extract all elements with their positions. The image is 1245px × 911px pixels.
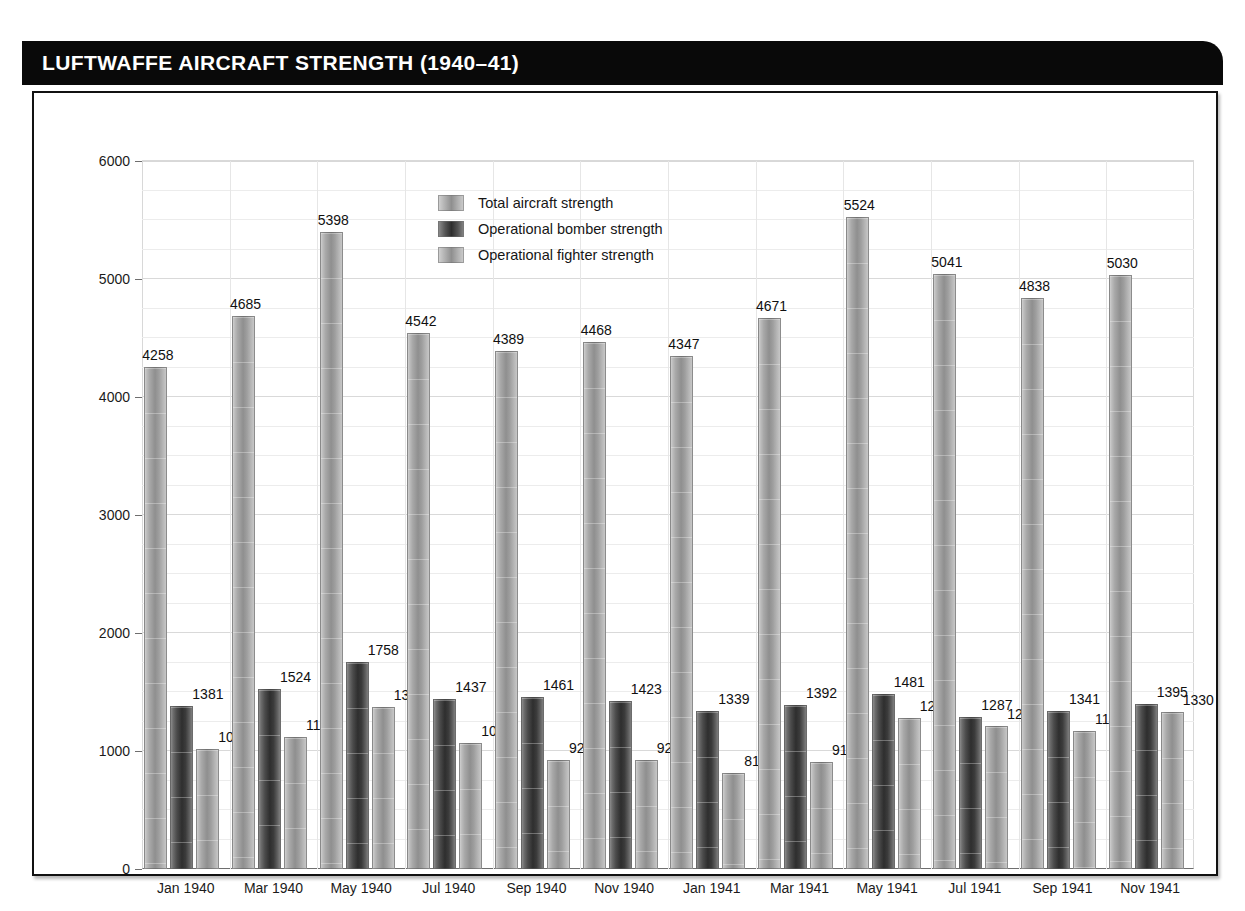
bar-total[interactable] xyxy=(1109,275,1132,869)
bar-texture xyxy=(873,695,894,868)
bar-bomber[interactable] xyxy=(1047,711,1070,869)
bar-total[interactable] xyxy=(583,342,606,869)
bar-total[interactable] xyxy=(1021,298,1044,869)
chart-legend: Total aircraft strengthOperational bombe… xyxy=(438,191,663,269)
bar-texture xyxy=(233,317,254,868)
legend-swatch-bomber xyxy=(438,221,464,237)
bar-texture xyxy=(259,690,280,868)
bar-texture xyxy=(460,744,481,868)
bar-value-label: 1341 xyxy=(1069,692,1100,706)
bar-total[interactable] xyxy=(670,356,693,869)
bar-total[interactable] xyxy=(933,274,956,869)
bar-group: 468515241123 xyxy=(230,161,318,869)
bar-fighter[interactable] xyxy=(372,707,395,869)
bar-value-label: 1437 xyxy=(455,680,486,694)
bar-fighter[interactable] xyxy=(985,726,1008,869)
bar-texture xyxy=(960,718,981,868)
bar-fighter[interactable] xyxy=(635,760,658,869)
bar-texture xyxy=(1074,732,1095,868)
bar-bomber[interactable] xyxy=(258,689,281,869)
bar-texture xyxy=(584,343,605,868)
y-axis-tick-mark xyxy=(135,397,142,398)
bar-total[interactable] xyxy=(144,367,167,869)
y-axis-tick-label: 1000 xyxy=(60,743,130,759)
bar-value-label: 4838 xyxy=(1019,279,1050,293)
x-axis-tick-label: Jul 1941 xyxy=(931,880,1019,896)
bar-fighter[interactable] xyxy=(196,749,219,869)
bar-value-label: 4389 xyxy=(493,332,524,346)
bar-fighter[interactable] xyxy=(722,773,745,869)
bar-texture xyxy=(408,334,429,868)
x-axis-tick-label: Mar 1940 xyxy=(230,880,318,896)
bar-bomber[interactable] xyxy=(784,705,807,869)
y-axis-tick-mark xyxy=(135,161,142,162)
bar-texture xyxy=(785,706,806,868)
bar-texture xyxy=(811,763,832,868)
page-title: LUFTWAFFE AIRCRAFT STRENGTH (1940–41) xyxy=(42,51,519,75)
bar-total[interactable] xyxy=(232,316,255,869)
bar-texture xyxy=(671,357,692,868)
y-axis-tick-mark xyxy=(135,515,142,516)
bar-value-label: 5524 xyxy=(844,198,875,212)
bar-fighter[interactable] xyxy=(459,743,482,869)
legend-item[interactable]: Operational bomber strength xyxy=(438,217,663,240)
chart-page: LUFTWAFFE AIRCRAFT STRENGTH (1940–41) 01… xyxy=(0,0,1245,911)
bar-total[interactable] xyxy=(320,232,343,869)
legend-item[interactable]: Operational fighter strength xyxy=(438,243,663,266)
bar-total[interactable] xyxy=(758,318,781,869)
bar-value-label: 1524 xyxy=(280,670,311,684)
bar-fighter[interactable] xyxy=(1073,731,1096,869)
bar-value-label: 1392 xyxy=(806,686,837,700)
bar-total[interactable] xyxy=(495,351,518,869)
bar-texture xyxy=(697,712,718,868)
bar-bomber[interactable] xyxy=(1135,704,1158,869)
chart-plot-area: 0100020003000400050006000 42581381101646… xyxy=(142,161,1194,869)
bar-group: 504112871213 xyxy=(931,161,1019,869)
legend-label: Operational bomber strength xyxy=(478,221,663,237)
bar-value-label: 4347 xyxy=(668,337,699,351)
x-axis-tick-label: Sep 1941 xyxy=(1019,880,1107,896)
bar-group: 552414811277 xyxy=(843,161,931,869)
x-axis-tick-label: Nov 1940 xyxy=(580,880,668,896)
bar-value-label: 4258 xyxy=(142,348,173,362)
bar-value-label: 4468 xyxy=(581,323,612,337)
legend-label: Operational fighter strength xyxy=(478,247,654,263)
bar-value-label: 4685 xyxy=(230,297,261,311)
bar-total[interactable] xyxy=(846,217,869,869)
bar-bomber[interactable] xyxy=(346,662,369,869)
x-axis-tick-label: Nov 1941 xyxy=(1106,880,1194,896)
bar-fighter[interactable] xyxy=(284,737,307,870)
y-axis-tick-mark xyxy=(135,869,142,870)
bar-bomber[interactable] xyxy=(872,694,895,869)
legend-swatch-fighter xyxy=(438,247,464,263)
legend-swatch-total xyxy=(438,195,464,211)
bar-texture xyxy=(1136,705,1157,868)
bar-value-label: 5041 xyxy=(931,255,962,269)
bar-bomber[interactable] xyxy=(959,717,982,869)
bar-texture xyxy=(986,727,1007,868)
bar-texture xyxy=(1022,299,1043,868)
bar-value-label: 1461 xyxy=(543,678,574,692)
bar-fighter[interactable] xyxy=(1161,712,1184,869)
bar-texture xyxy=(285,738,306,869)
bar-bomber[interactable] xyxy=(170,706,193,869)
bar-bomber[interactable] xyxy=(433,699,456,869)
bar-fighter[interactable] xyxy=(810,762,833,869)
bar-texture xyxy=(636,761,657,868)
bar-texture xyxy=(321,233,342,868)
x-axis-tick-label: May 1940 xyxy=(317,880,405,896)
bar-fighter[interactable] xyxy=(547,760,570,869)
bar-bomber[interactable] xyxy=(696,711,719,869)
y-axis-tick-mark xyxy=(135,279,142,280)
bar-texture xyxy=(171,707,192,868)
bar-group: 483813411171 xyxy=(1019,161,1107,869)
bar-fighter[interactable] xyxy=(898,718,921,869)
title-bar: LUFTWAFFE AIRCRAFT STRENGTH (1940–41) xyxy=(22,41,1223,85)
bar-texture xyxy=(347,663,368,868)
bar-texture xyxy=(1162,713,1183,868)
bar-bomber[interactable] xyxy=(609,701,632,869)
bar-texture xyxy=(1110,276,1131,868)
legend-item[interactable]: Total aircraft strength xyxy=(438,191,663,214)
bar-bomber[interactable] xyxy=(521,697,544,869)
bar-total[interactable] xyxy=(407,333,430,869)
